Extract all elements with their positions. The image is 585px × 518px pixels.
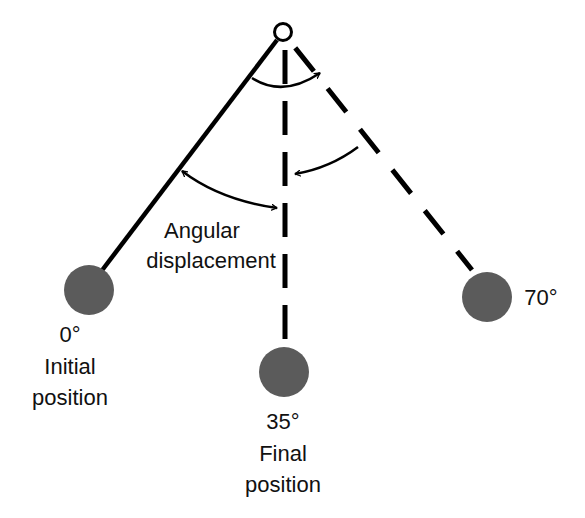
annotation-line2: displacement xyxy=(146,248,276,273)
return-arrow xyxy=(295,147,358,174)
pivot-icon xyxy=(275,24,292,41)
initial-label-line2: position xyxy=(32,385,108,410)
initial-angle-label: 0° xyxy=(59,322,80,347)
initial-bob xyxy=(64,265,114,315)
extreme-angle-label: 70° xyxy=(524,285,557,310)
final-bob xyxy=(259,347,309,397)
final-label-line1: Final xyxy=(259,441,307,466)
extreme-bob xyxy=(462,272,512,322)
initial-label-line1: Initial xyxy=(44,354,95,379)
final-angle-label: 35° xyxy=(266,409,299,434)
angular-displacement-arrow xyxy=(182,171,277,208)
annotation-line1: Angular xyxy=(164,218,240,243)
pendulum-diagram: Angular displacement 0° Initial position… xyxy=(0,0,585,518)
final-label-line2: position xyxy=(245,472,321,497)
